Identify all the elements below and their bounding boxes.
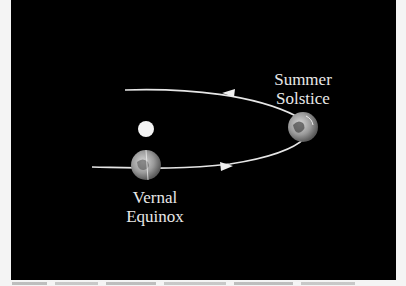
vernal-label-line2: Equinox [110, 207, 200, 226]
summer-label-line1: Summer [263, 70, 343, 89]
vernal-equinox-label: Vernal Equinox [110, 188, 200, 226]
earth-vernal-icon [131, 150, 161, 180]
summer-label-line2: Solstice [263, 89, 343, 108]
figure-caption-cutoff [12, 281, 402, 286]
earth-summer-icon [288, 112, 318, 142]
summer-solstice-label: Summer Solstice [263, 70, 343, 108]
sun-icon [138, 121, 154, 137]
orbit-diagram [0, 0, 406, 286]
vernal-label-line1: Vernal [110, 188, 200, 207]
orbit-bottom-arc [92, 138, 305, 168]
